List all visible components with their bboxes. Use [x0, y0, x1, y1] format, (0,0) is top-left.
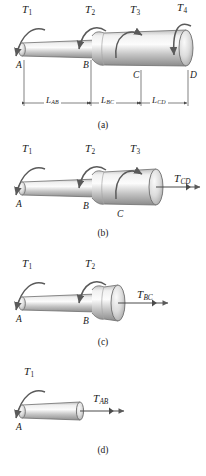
shaft-segment-ab	[19, 179, 97, 197]
panel-c: T1 T2 TBC A B (c)	[0, 245, 206, 353]
torque-label-t4: T4	[177, 2, 187, 15]
shaft-segment-ab	[19, 294, 97, 312]
torque-label-t1: T1	[24, 366, 34, 379]
dimension-label-lab: LAB	[44, 96, 61, 106]
point-label-c: C	[117, 210, 123, 220]
point-label-d: D	[190, 71, 197, 81]
point-label-a: A	[16, 423, 22, 433]
panel-caption-b: (b)	[0, 228, 206, 238]
panel-b: T1 T2 T3 TCD A B C (b)	[0, 135, 206, 245]
panel-caption-a: (a)	[0, 120, 206, 130]
panel-caption-d: (d)	[0, 445, 206, 455]
point-label-c: C	[133, 71, 139, 81]
internal-torque-vector-tab	[80, 407, 124, 414]
shaft-segment-bd	[92, 30, 193, 66]
panel-d: T1 TAB A (d)	[0, 353, 206, 476]
torque-label-t2: T2	[85, 4, 95, 17]
dimension-label-lcd: LCD	[150, 96, 168, 106]
point-label-a: A	[16, 315, 22, 325]
torque-label-t1: T1	[22, 143, 32, 156]
panel-a-drawing	[0, 0, 206, 135]
internal-torque-label-tcd: TCD	[174, 173, 191, 186]
internal-torque-label-tbc: TBC	[137, 289, 153, 302]
torque-label-t3: T3	[130, 143, 140, 156]
shaft-segment-bc	[92, 169, 163, 205]
internal-torque-label-tab: TAB	[93, 393, 108, 406]
shaft-segment-ab	[19, 402, 84, 420]
shaft-segment-ab	[19, 40, 97, 58]
torque-label-t1: T1	[22, 258, 32, 271]
point-label-a: A	[16, 61, 22, 71]
torque-label-t2: T2	[85, 143, 95, 156]
point-label-b: B	[83, 317, 89, 327]
panel-a: T1 T2 T3 T4 A B C D LAB LBC LCD (a)	[0, 0, 206, 135]
dimension-label-lbc: LBC	[99, 96, 116, 106]
point-label-a: A	[16, 200, 22, 210]
torque-label-t3: T3	[130, 4, 140, 17]
point-label-b: B	[83, 61, 89, 71]
panel-caption-c: (c)	[0, 337, 206, 347]
torque-label-t2: T2	[85, 258, 95, 271]
point-label-b: B	[83, 202, 89, 212]
torque-label-t1: T1	[22, 4, 32, 17]
